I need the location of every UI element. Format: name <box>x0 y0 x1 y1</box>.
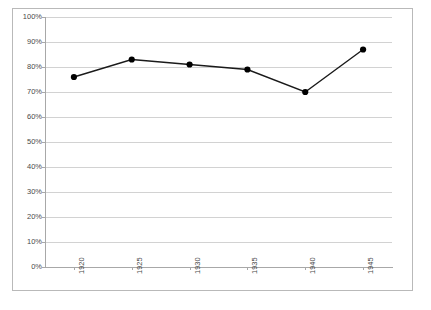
y-tick-mark <box>42 167 45 168</box>
y-tick-mark <box>42 117 45 118</box>
y-tick-mark <box>42 267 45 268</box>
y-tick-label: 70% <box>27 88 42 96</box>
y-tick-label: 10% <box>27 238 42 246</box>
y-tick-mark <box>42 67 45 68</box>
y-tick-mark <box>42 92 45 93</box>
y-tick-mark <box>42 242 45 243</box>
y-axis-tick-labels: 100%90%80%70%60%50%40%30%20%10%0% <box>12 17 42 268</box>
data-point-marker <box>302 89 308 95</box>
data-point-marker <box>186 61 192 67</box>
y-tick-label: 100% <box>23 13 42 21</box>
data-point-marker <box>129 56 135 62</box>
data-point-marker <box>71 74 77 80</box>
data-point-marker <box>360 46 366 52</box>
y-tick-mark <box>42 192 45 193</box>
y-tick-label: 40% <box>27 163 42 171</box>
y-tick-label: 30% <box>27 188 42 196</box>
y-tick-label: 0% <box>31 263 42 271</box>
line-chart-figure: 100%90%80%70%60%50%40%30%20%10%0% 192019… <box>0 0 431 310</box>
y-tick-label: 90% <box>27 38 42 46</box>
y-tick-mark <box>42 217 45 218</box>
y-tick-mark <box>42 17 45 18</box>
y-tick-label: 20% <box>27 213 42 221</box>
data-point-marker <box>244 66 250 72</box>
y-tick-label: 80% <box>27 63 42 71</box>
y-tick-label: 50% <box>27 138 42 146</box>
y-tick-mark <box>42 42 45 43</box>
series-polyline <box>74 50 363 93</box>
y-tick-mark <box>42 142 45 143</box>
data-series-line <box>45 17 392 268</box>
y-tick-label: 60% <box>27 113 42 121</box>
